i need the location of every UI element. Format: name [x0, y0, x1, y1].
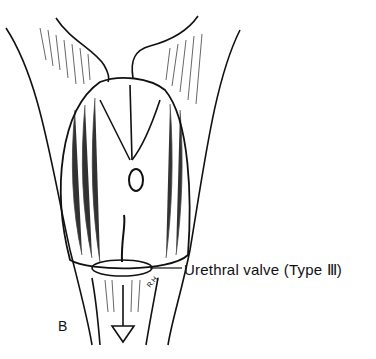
panel-label: B — [58, 318, 68, 334]
urethra-bladder-drawing: R.H. — [0, 0, 376, 359]
urethral-valve-callout-label: Urethral valve (Type Ⅲ) — [184, 261, 342, 279]
anatomical-illustration: R.H. Urethral valve (Type Ⅲ) B — [0, 0, 376, 359]
outer-wall-left — [6, 28, 92, 345]
